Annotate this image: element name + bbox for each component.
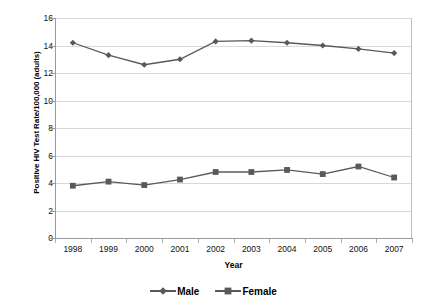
y-axis-tick-group: 0246810121416 xyxy=(0,0,53,307)
x-axis-tick-mark xyxy=(341,239,342,243)
legend-label-female: Female xyxy=(242,286,276,297)
x-axis-tick-mark xyxy=(126,239,127,243)
gridline xyxy=(56,183,411,184)
x-axis-tick-label: 2000 xyxy=(124,244,164,254)
x-axis-tick-mark xyxy=(162,239,163,243)
x-axis-tick-mark xyxy=(91,239,92,243)
x-axis-tick-mark xyxy=(198,239,199,243)
gridline xyxy=(56,128,411,129)
legend-item-male[interactable]: Male xyxy=(150,285,199,297)
gridline xyxy=(56,211,411,212)
x-axis-tick-label: 2006 xyxy=(338,244,378,254)
gridline xyxy=(56,156,411,157)
gridline xyxy=(56,73,411,74)
x-axis-tick-label: 2002 xyxy=(196,244,236,254)
gridline xyxy=(56,101,411,102)
plot-area xyxy=(55,18,412,238)
x-axis-title: Year xyxy=(55,260,412,270)
x-axis-tick-mark xyxy=(55,239,56,243)
legend-label-male: Male xyxy=(177,286,199,297)
x-axis-tick-mark xyxy=(412,239,413,243)
gridline xyxy=(56,46,411,47)
legend-marker-square-icon xyxy=(215,285,241,297)
x-axis-tick-label: 2003 xyxy=(231,244,271,254)
x-axis-tick-mark xyxy=(305,239,306,243)
legend-item-female[interactable]: Female xyxy=(215,285,276,297)
x-axis-tick-label: 2001 xyxy=(160,244,200,254)
x-axis-tick-mark xyxy=(234,239,235,243)
x-axis-tick-label: 1999 xyxy=(89,244,129,254)
hiv-test-rate-line-chart: Positive HIV Test Rate/100,000 (adults) … xyxy=(0,0,427,307)
x-axis-tick-label: 1998 xyxy=(53,244,93,254)
x-axis-tick-label: 2007 xyxy=(374,244,414,254)
x-axis-tick-label: 2004 xyxy=(267,244,307,254)
gridline xyxy=(56,18,411,19)
x-axis-tick-label: 2005 xyxy=(303,244,343,254)
x-axis-tick-mark xyxy=(269,239,270,243)
legend-marker-diamond-icon xyxy=(150,285,176,297)
x-axis-tick-mark xyxy=(376,239,377,243)
chart-legend: Male Female xyxy=(0,285,427,297)
